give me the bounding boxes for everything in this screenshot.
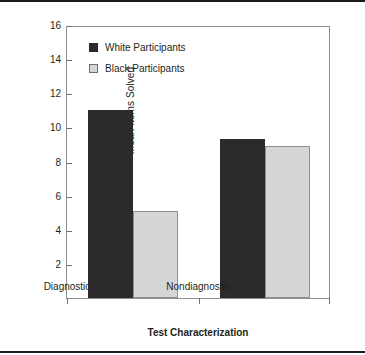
y-tick-mark [67, 231, 72, 232]
x-axis-tick-label-nondiagnostic: Nondiagnostic [138, 281, 258, 292]
x-tick-mark-left [67, 298, 68, 304]
bar-nondiagnostic-black [265, 146, 310, 298]
legend-swatch-outlined-square-icon [89, 64, 98, 73]
legend-label: White Participants [105, 42, 186, 53]
legend-label: Black Participants [105, 63, 184, 74]
y-tick-mark [67, 94, 72, 95]
y-tick-label: 6 [41, 191, 61, 202]
x-axis-title: Test Characterization [66, 327, 330, 338]
legend-item-white-participants: White Participants [89, 39, 186, 56]
bar-nondiagnostic-white [220, 139, 265, 298]
y-tick-mark [67, 265, 72, 266]
y-tick-mark [67, 197, 72, 198]
figure-bottom-rule [0, 351, 365, 353]
y-tick-label: 10 [41, 122, 61, 133]
y-tick-label: 14 [41, 54, 61, 65]
y-tick-label: 4 [41, 225, 61, 236]
chart-legend: White Participants Black Participants [89, 39, 186, 81]
y-tick-label: 2 [41, 259, 61, 270]
x-tick-mark-middle [199, 298, 200, 304]
plot-area: Mean Items Solved 16 14 12 10 8 6 4 [66, 26, 330, 299]
bar-diagnostic-white [88, 110, 133, 298]
y-tick-mark [67, 60, 72, 61]
y-tick-mark [67, 128, 72, 129]
figure-top-rule [0, 0, 365, 2]
y-tick-mark [67, 26, 72, 27]
legend-item-black-participants: Black Participants [89, 60, 186, 77]
x-axis-tick-label-diagnostic: Diagnostic [7, 281, 127, 292]
y-tick-mark [67, 163, 72, 164]
y-tick-label: 16 [41, 20, 61, 31]
y-tick-label: 12 [41, 88, 61, 99]
x-tick-mark-right [329, 298, 330, 304]
figure-container: Mean Items Solved 16 14 12 10 8 6 4 [0, 0, 365, 355]
legend-swatch-filled-square-icon [89, 43, 98, 52]
y-tick-label: 8 [41, 157, 61, 168]
